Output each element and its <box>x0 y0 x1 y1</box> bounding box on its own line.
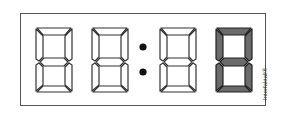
brand-label: Interfaktall® <box>262 68 268 100</box>
digit-3 <box>160 28 196 92</box>
seven-segment-display <box>0 0 287 113</box>
digit-1 <box>36 28 72 92</box>
colon-separator <box>139 43 146 75</box>
digit-2 <box>92 28 128 92</box>
digit-4-highlighted <box>216 28 252 92</box>
